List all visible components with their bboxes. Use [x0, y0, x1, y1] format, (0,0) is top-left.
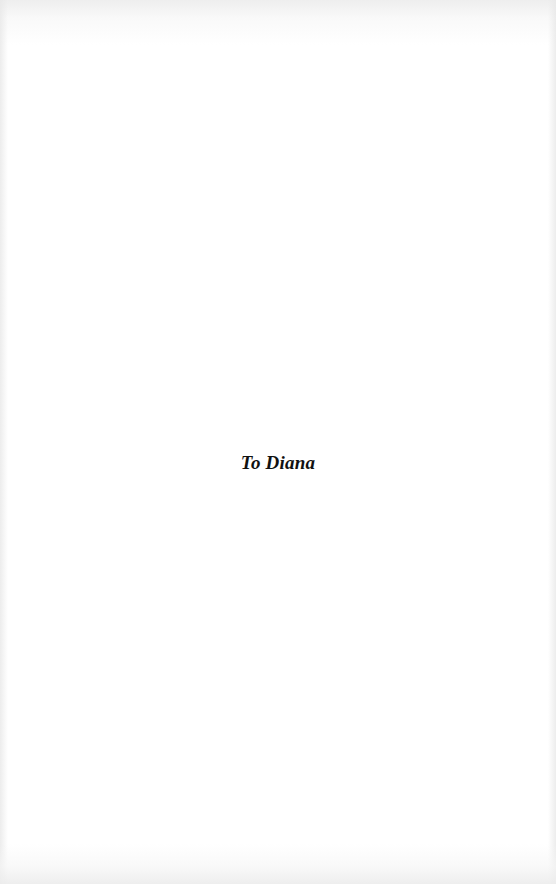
page-edge-shadow-bottom [0, 844, 556, 884]
page-edge-shadow-right [548, 0, 556, 884]
page-edge-shadow-top [0, 0, 556, 45]
dedication-text: To Diana [0, 452, 556, 474]
page-edge-shadow-left [0, 0, 8, 884]
book-page: To Diana [0, 0, 556, 884]
